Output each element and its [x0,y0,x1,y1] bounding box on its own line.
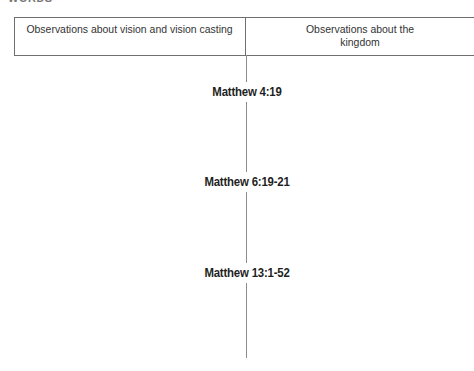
header-cell-kingdom: Observations about the kingdom [246,18,474,55]
observations-header-table: Observations about vision and vision cas… [14,17,474,56]
header-cell-vision: Observations about vision and vision cas… [15,18,246,55]
header-cell-kingdom-label: Observations about the kingdom [297,23,422,55]
worksheet-page: { "page": { "background": "#ffffff", "cl… [0,0,474,371]
clipped-heading-text: WORDS [8,0,68,4]
clipped-heading-fragment: WORDS [8,0,68,4]
scripture-label-matthew-6-19-21: Matthew 6:19-21 [200,172,295,192]
scripture-label-matthew-4-19: Matthew 4:19 [208,82,287,102]
header-cell-vision-label: Observations about vision and vision cas… [27,23,233,36]
scripture-label-matthew-13-1-52: Matthew 13:1-52 [200,263,295,283]
